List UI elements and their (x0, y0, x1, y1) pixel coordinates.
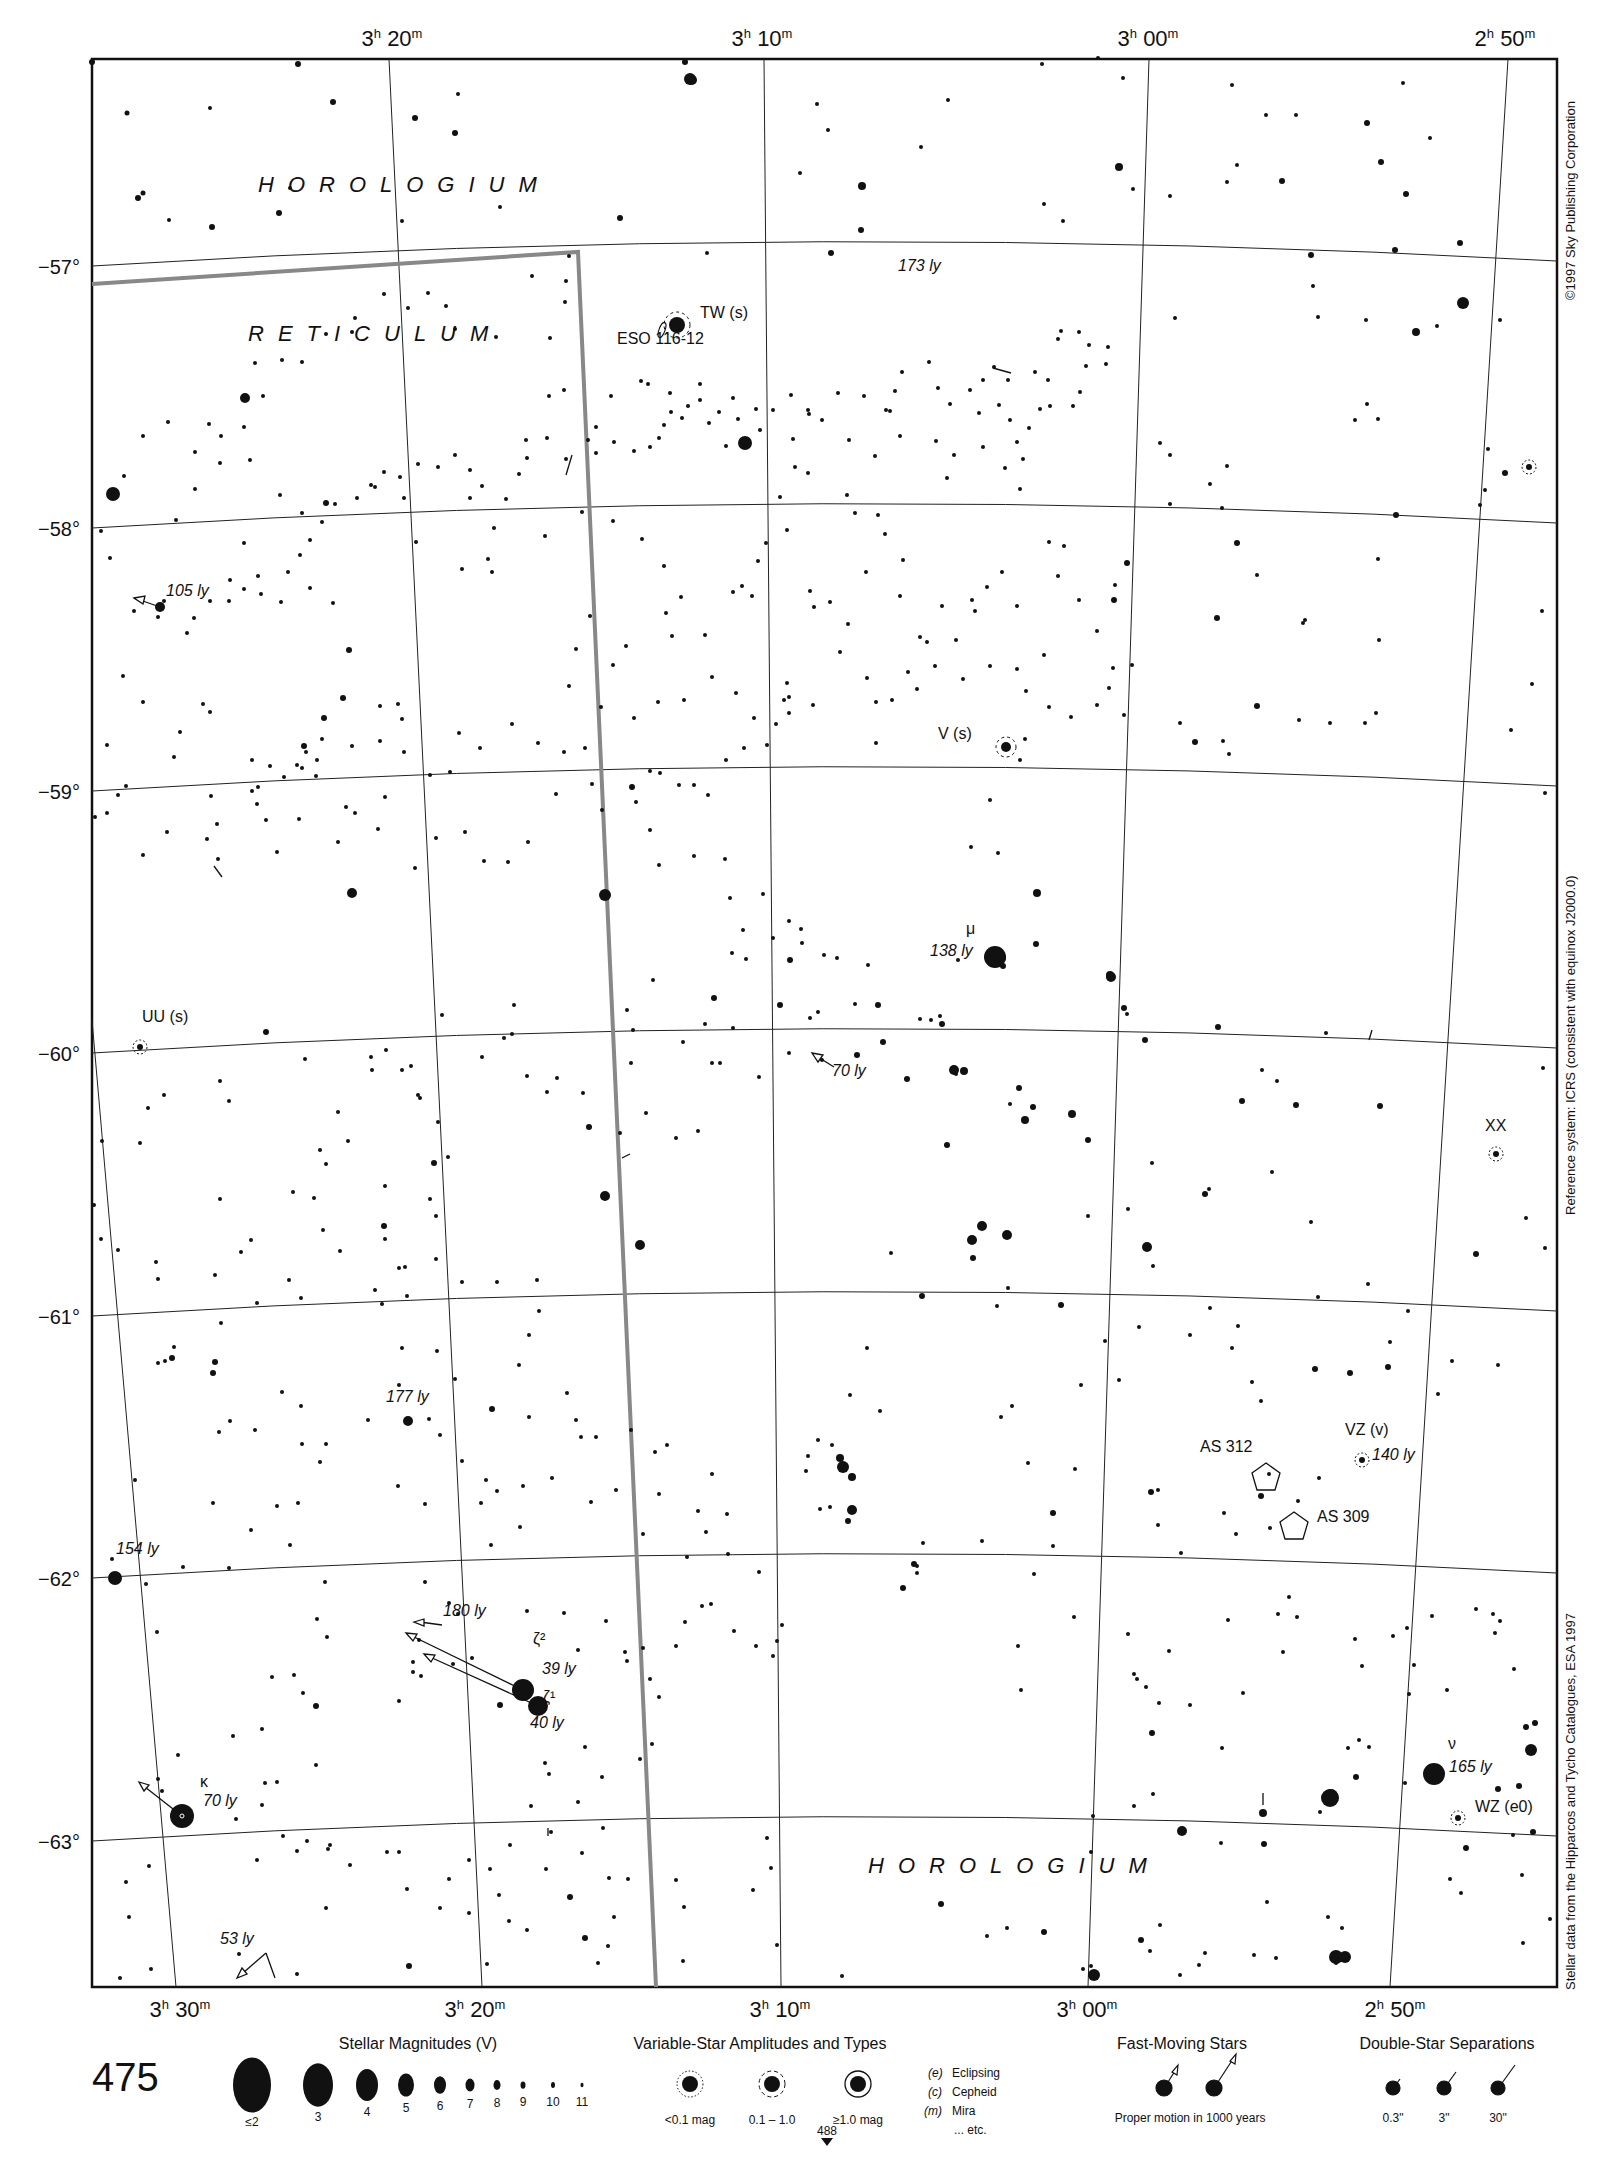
star (698, 382, 702, 386)
chart-frame (92, 59, 1557, 1987)
star (960, 1067, 968, 1075)
star (848, 1473, 856, 1481)
star (651, 978, 655, 982)
star (670, 634, 674, 638)
star (1149, 1730, 1155, 1736)
star (915, 1564, 919, 1568)
star (754, 407, 758, 411)
star (242, 587, 246, 591)
star (228, 1419, 232, 1423)
star (1015, 440, 1019, 444)
legend-magnitude-dot (494, 2080, 501, 2090)
star (259, 592, 263, 596)
star (1388, 1340, 1392, 1344)
star (724, 758, 728, 762)
star (260, 1727, 264, 1731)
star (280, 1390, 284, 1394)
star (1496, 1363, 1500, 1367)
star (547, 1772, 551, 1776)
star (1021, 1116, 1029, 1124)
star (873, 454, 877, 458)
legend-double-stars-title: Double-Star Separations (1359, 2035, 1534, 2053)
star (234, 1817, 238, 1821)
star (875, 1002, 881, 1008)
star (324, 1442, 328, 1446)
dec-label: −58° (20, 518, 80, 541)
star (836, 391, 840, 395)
star (489, 1406, 495, 1412)
star (1294, 113, 1298, 117)
star-large-3 (599, 889, 611, 901)
star-large-4 (1457, 297, 1469, 309)
star (1131, 187, 1135, 191)
star (209, 224, 215, 230)
star (1103, 1339, 1107, 1343)
legend-magnitude-label: 3 (315, 2110, 322, 2124)
star (586, 438, 590, 442)
star (525, 1928, 529, 1932)
star (301, 743, 307, 749)
star (281, 1834, 285, 1838)
star (706, 793, 710, 797)
star (778, 495, 782, 499)
star-nu (1423, 1763, 1445, 1785)
star (141, 434, 145, 438)
star (256, 574, 260, 578)
star (981, 445, 985, 449)
star (1033, 941, 1039, 947)
star (300, 766, 304, 770)
star (1008, 418, 1012, 422)
star (580, 510, 584, 514)
star (1308, 252, 1314, 258)
star-vz (1359, 1457, 1365, 1463)
legend-type-name: Mira (952, 2104, 975, 2118)
star-label: 140 ly (1372, 1446, 1415, 1464)
star (707, 421, 711, 425)
ra-label-bottom: 3h 00m (1057, 1997, 1118, 2023)
star (105, 811, 109, 815)
star (1265, 1900, 1269, 1904)
star (1091, 1814, 1095, 1818)
star (1058, 1302, 1064, 1308)
next-page-ref[interactable]: 488 (817, 2124, 837, 2138)
star (1208, 1306, 1212, 1310)
star-label: 40 ly (530, 1714, 564, 1732)
legend-magnitude-label: 10 (546, 2095, 559, 2109)
star (583, 1745, 587, 1749)
star (346, 647, 352, 653)
star (1062, 544, 1066, 548)
star (1018, 487, 1022, 491)
star (1107, 686, 1111, 690)
star (237, 1952, 241, 1956)
star (510, 722, 514, 726)
star (264, 818, 268, 822)
star (323, 500, 329, 506)
star (156, 1361, 160, 1365)
star (328, 1843, 332, 1847)
star (336, 1110, 340, 1114)
star (686, 404, 690, 408)
star (1376, 417, 1380, 421)
star (862, 394, 866, 398)
star (110, 1557, 114, 1561)
star (800, 941, 804, 945)
star (648, 1677, 652, 1681)
legend-magnitude-label: 11 (576, 2095, 588, 2109)
star (612, 440, 616, 444)
star (830, 1443, 834, 1447)
star (1122, 713, 1126, 717)
star (618, 1131, 622, 1135)
star (312, 1196, 316, 1200)
star (1225, 180, 1229, 184)
star (589, 1500, 593, 1504)
star (812, 605, 816, 609)
star (1077, 330, 1081, 334)
star (1079, 1383, 1083, 1387)
star (1084, 364, 1088, 368)
star (657, 863, 661, 867)
star (1158, 1923, 1162, 1927)
next-page-arrow-icon[interactable] (821, 2138, 833, 2146)
star (163, 1359, 167, 1363)
star (147, 1864, 151, 1868)
star (338, 1249, 342, 1253)
